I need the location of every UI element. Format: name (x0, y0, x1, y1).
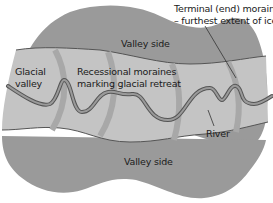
recessional-moraines-label-line2: marking glacial retreat (77, 78, 181, 89)
glacial-valley-diagram (0, 0, 273, 203)
valley-side-bottom-region (2, 136, 266, 198)
valley-side-bottom-label: Valley side (124, 156, 173, 167)
glacial-valley-label-line1: Glacial (15, 66, 46, 77)
valley-side-top-label: Valley side (121, 38, 170, 49)
terminal-moraine-label-line2: – furthest extent of ice (174, 15, 273, 26)
terminal-moraine-label-line1: Terminal (end) moraine (174, 3, 273, 14)
river-label: River (206, 128, 230, 139)
recessional-moraines-label-line1: Recessional moraines (77, 66, 176, 77)
glacial-valley-label-line2: valley (15, 78, 42, 89)
